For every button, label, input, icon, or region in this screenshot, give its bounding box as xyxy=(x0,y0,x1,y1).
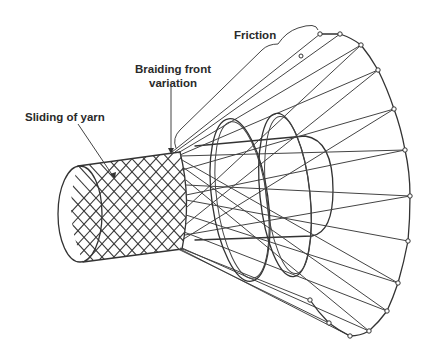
mandrel-top-edge xyxy=(78,152,180,166)
braided-mesh xyxy=(0,150,296,270)
braiding-front-label-line1: Braiding front xyxy=(127,62,219,76)
carrier-track xyxy=(310,34,410,336)
braiding-front-label-line2: variation xyxy=(127,76,219,90)
sliding-of-yarn-label: Sliding of yarn xyxy=(25,110,105,124)
braiding-schematic xyxy=(0,0,434,354)
friction-label: Friction xyxy=(234,28,276,42)
sliding-yarn-pointer xyxy=(78,124,113,176)
braiding-front-label: Braiding front variation xyxy=(127,62,219,90)
